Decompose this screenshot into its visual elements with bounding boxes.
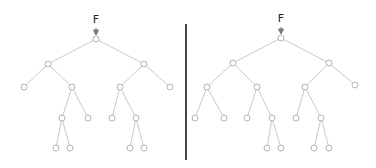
tree-edge xyxy=(233,63,257,87)
tree-edge xyxy=(314,118,321,148)
tree-node xyxy=(254,84,260,90)
tree-edge xyxy=(257,87,272,118)
tree-node xyxy=(352,82,358,88)
tree-node xyxy=(230,60,236,66)
tree-edge xyxy=(144,64,170,87)
tree-edge xyxy=(207,87,224,118)
tree-edge xyxy=(272,118,281,148)
tree-node xyxy=(302,84,308,90)
tree-node xyxy=(278,145,284,151)
tree-node xyxy=(109,115,115,121)
tree-node xyxy=(69,84,75,90)
tree-left xyxy=(21,28,173,151)
tree-node xyxy=(127,145,133,151)
tree-node xyxy=(117,84,123,90)
tree-edge xyxy=(247,87,257,118)
tree-node xyxy=(45,61,51,67)
tree-node xyxy=(67,145,73,151)
tree-node xyxy=(167,84,173,90)
arrow-down-icon xyxy=(279,27,284,34)
tree-node xyxy=(326,60,332,66)
tree-edge xyxy=(195,87,207,118)
tree-root-label: F xyxy=(278,12,284,25)
tree-edge xyxy=(305,87,321,118)
tree-node xyxy=(204,84,210,90)
tree-node xyxy=(59,115,65,121)
tree-edge xyxy=(296,87,305,118)
tree-edge xyxy=(321,118,329,148)
tree-diagram xyxy=(0,0,376,168)
tree-edge xyxy=(96,39,144,64)
tree-node xyxy=(318,115,324,121)
tree-edge xyxy=(72,87,88,118)
tree-node xyxy=(85,115,91,121)
tree-node xyxy=(21,84,27,90)
tree-root-label: F xyxy=(93,13,99,26)
arrow-down-icon xyxy=(94,28,99,35)
tree-edge xyxy=(48,64,72,87)
tree-edge xyxy=(130,118,136,148)
tree-node xyxy=(221,115,227,121)
tree-node xyxy=(133,115,139,121)
tree-node xyxy=(141,61,147,67)
tree-edge xyxy=(329,63,355,85)
tree-edge xyxy=(62,87,72,118)
tree-right xyxy=(192,27,358,151)
tree-edge xyxy=(207,63,233,87)
tree-node xyxy=(311,145,317,151)
tree-edge xyxy=(56,118,62,148)
tree-node xyxy=(264,145,270,151)
tree-edge xyxy=(305,63,329,87)
tree-node xyxy=(278,35,284,41)
tree-node xyxy=(244,115,250,121)
tree-edge xyxy=(281,38,329,63)
tree-node xyxy=(269,115,275,121)
tree-node xyxy=(326,145,332,151)
tree-edge xyxy=(267,118,272,148)
tree-node xyxy=(93,36,99,42)
tree-edge xyxy=(24,64,48,87)
tree-edge xyxy=(62,118,70,148)
tree-edge xyxy=(112,87,120,118)
tree-edge xyxy=(120,87,136,118)
tree-node xyxy=(141,145,147,151)
tree-edge xyxy=(120,64,144,87)
tree-edge xyxy=(136,118,144,148)
tree-edge xyxy=(48,39,96,64)
tree-node xyxy=(192,115,198,121)
tree-node xyxy=(53,145,59,151)
tree-node xyxy=(293,115,299,121)
tree-edge xyxy=(233,38,281,63)
divider-line xyxy=(185,24,187,160)
